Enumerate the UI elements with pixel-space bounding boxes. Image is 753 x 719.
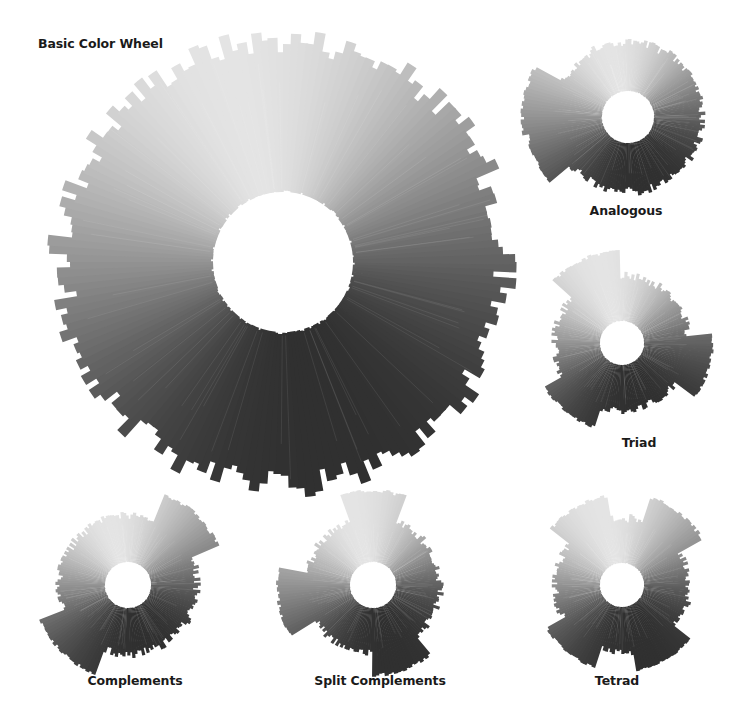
split-complements-label: Split Complements <box>314 673 445 688</box>
tetrad-wheel <box>512 475 732 695</box>
basic-color-wheel <box>11 0 555 534</box>
complements-label: Complements <box>87 673 182 688</box>
analogous-wheel <box>510 0 746 235</box>
tetrad-label: Tetrad <box>595 673 639 688</box>
triad-label: Triad <box>622 435 657 450</box>
analogous-label: Analogous <box>590 203 663 218</box>
triad-wheel <box>512 233 732 453</box>
split-complements-wheel <box>263 475 483 695</box>
complements-wheel <box>16 473 240 697</box>
